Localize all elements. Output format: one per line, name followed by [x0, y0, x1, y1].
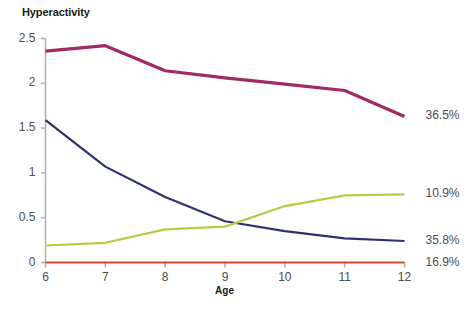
x-tick-label: 8	[150, 270, 180, 284]
x-tick-label: 12	[390, 270, 420, 284]
series-endpoint-label-4: 16.9%	[426, 255, 460, 269]
hyperactivity-line-chart: Hyperactivity 2.521.510.50 6789101112 36…	[0, 0, 471, 311]
x-tick-label: 10	[270, 270, 300, 284]
x-tick-label: 7	[90, 270, 120, 284]
y-tick-label: 2	[2, 75, 36, 89]
x-tick-label: 11	[330, 270, 360, 284]
series-endpoint-label-3: 35.8%	[426, 233, 460, 247]
y-tick-label: 0.5	[2, 210, 36, 224]
series-line-3	[46, 120, 405, 241]
y-tick-label: 1	[2, 165, 36, 179]
y-tick-label: 1.5	[2, 120, 36, 134]
series-endpoint-label-2: 10.9%	[426, 186, 460, 200]
series-endpoint-label-1: 36.5%	[426, 108, 460, 122]
plot-area	[0, 0, 471, 311]
y-tick-label: 0	[2, 255, 36, 269]
x-tick-label: 9	[210, 270, 240, 284]
x-tick-label: 6	[31, 270, 61, 284]
x-axis-title: Age	[0, 285, 449, 296]
series-line-1	[46, 46, 405, 117]
y-tick-label: 2.5	[2, 31, 36, 45]
